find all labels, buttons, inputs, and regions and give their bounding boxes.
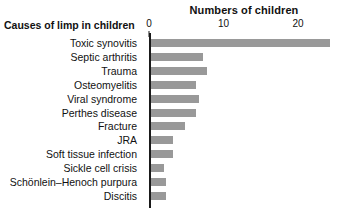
x-tick-label: 10 <box>218 18 229 29</box>
x-axis-tick-labels: 01020 <box>0 18 339 32</box>
bar-row: Viral syndrome <box>0 92 339 106</box>
bar <box>151 67 207 75</box>
bar-category-label: Fracture <box>0 119 142 133</box>
bar <box>151 109 196 117</box>
bar-row: Trauma <box>0 64 339 78</box>
bar-row: JRA <box>0 133 339 147</box>
bar-row: Osteomyelitis <box>0 78 339 92</box>
bar <box>151 136 173 144</box>
bar-category-label: Schönlein–Henoch purpura <box>0 175 142 189</box>
plot-area: Toxic synovitisSeptic arthritisTraumaOst… <box>0 35 339 210</box>
bar-category-label: Discitis <box>0 189 142 203</box>
bar <box>151 39 330 47</box>
bar <box>151 95 199 103</box>
bar-category-label: Perthes disease <box>0 106 142 120</box>
bar <box>151 122 185 130</box>
bar <box>151 53 203 61</box>
bar-row: Perthes disease <box>0 106 339 120</box>
bar <box>151 192 166 200</box>
bar-category-label: Septic arthritis <box>0 50 142 64</box>
bar <box>151 81 196 89</box>
x-tick-label: 0 <box>146 18 152 29</box>
bar-category-label: Trauma <box>0 64 142 78</box>
bar <box>151 178 166 186</box>
bar <box>151 164 164 172</box>
bar-category-label: Soft tissue infection <box>0 147 142 161</box>
bar-row: Septic arthritis <box>0 50 339 64</box>
bar-category-label: Toxic synovitis <box>0 36 142 50</box>
x-tick-label: 20 <box>292 18 303 29</box>
bar-category-label: Osteomyelitis <box>0 78 142 92</box>
chart-title: Numbers of children <box>149 4 339 16</box>
bar-row: Sickle cell crisis <box>0 161 339 175</box>
bar-row: Soft tissue infection <box>0 147 339 161</box>
bar-category-label: JRA <box>0 133 142 147</box>
bar-category-label: Viral syndrome <box>0 92 142 106</box>
bar-row: Schönlein–Henoch purpura <box>0 175 339 189</box>
bar <box>151 150 173 158</box>
bar-row: Toxic synovitis <box>0 36 339 50</box>
bar-chart-figure: Numbers of children Causes of limp in ch… <box>0 0 339 215</box>
bar-row: Discitis <box>0 189 339 203</box>
bar-category-label: Sickle cell crisis <box>0 161 142 175</box>
bar-row: Fracture <box>0 119 339 133</box>
